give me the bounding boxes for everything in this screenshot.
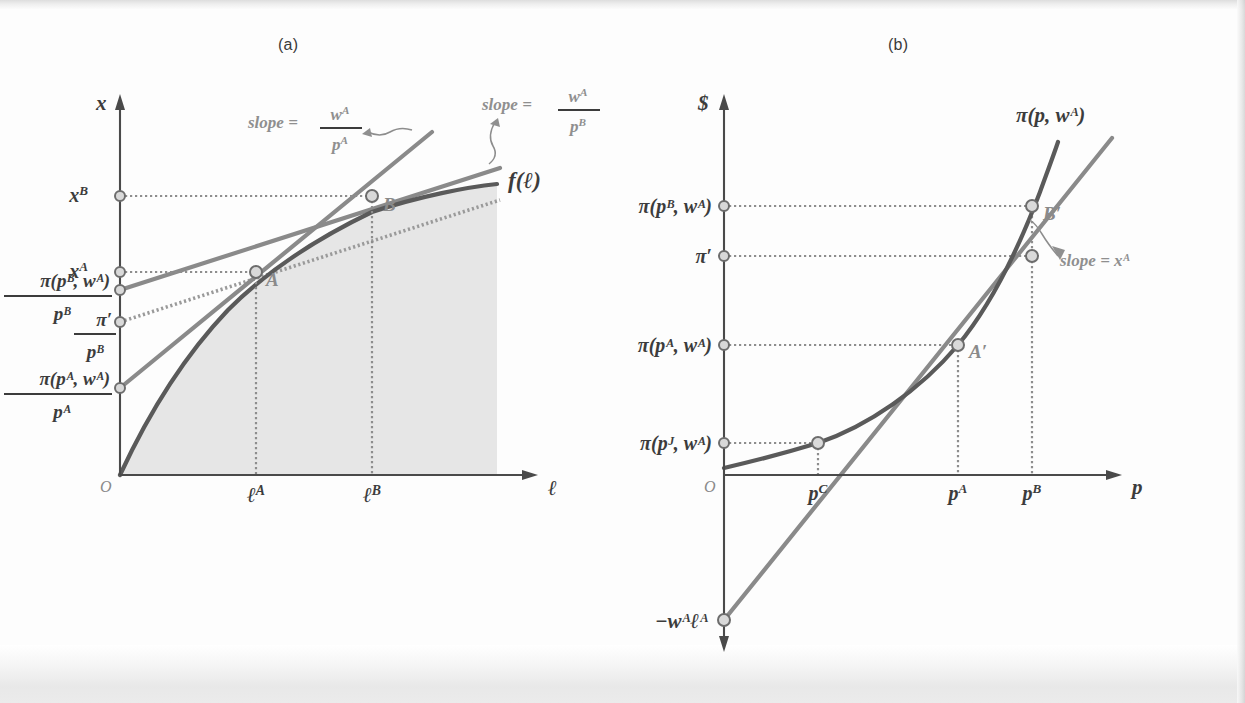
tick-point-piprime-pB <box>115 317 125 327</box>
point-intercept-marker <box>718 614 730 626</box>
y-tick-label-xB: xB <box>68 183 88 207</box>
point-Aprime-marker <box>952 339 964 351</box>
x-axis-arrow-a <box>522 470 538 480</box>
slope-a-denominator: pA <box>330 134 349 154</box>
tick-point-pi-pC <box>719 438 729 448</box>
y-tick-label-pi-pA: π(pᴬ, wᴬ) <box>638 334 712 357</box>
slope-a-numerator: wA <box>331 104 350 124</box>
slope-b-prefix: slope = <box>481 95 532 114</box>
frac-numerator-piB: π(pᴮ, wᴬ) <box>40 270 110 292</box>
slope-b-denominator: pB <box>568 116 587 136</box>
panel-a-caption: (a) <box>278 36 298 54</box>
tick-point-xB <box>115 191 125 201</box>
y-axis-arrow-b-up <box>719 94 729 110</box>
panel-a-chart: x ℓ O xB xA π(pᴮ, wᴬ) pᴮ π′ pᴮ π(pᴬ, <box>0 70 620 630</box>
frac-denominator-pB: pᴮ <box>52 303 72 324</box>
tick-point-pi-pB <box>719 201 729 211</box>
origin-label-a: O <box>100 478 112 495</box>
y-axis-arrow-a <box>115 94 125 110</box>
slope-b-numerator: wA <box>569 86 588 106</box>
y-axis-label-a: x <box>95 91 107 115</box>
origin-label-b: O <box>704 478 716 495</box>
panel-b-caption: (b) <box>888 36 908 54</box>
y-tick-label-pi-prime: π′ <box>695 245 712 267</box>
scan-artifact-top <box>0 0 1245 9</box>
point-B-label: B <box>382 194 396 215</box>
point-B-marker <box>366 190 378 202</box>
frac-denominator-pB2: pᴮ <box>85 341 105 362</box>
slope-annotation-xA: slope = xᴬ <box>1030 220 1131 270</box>
point-Bprime-label: B′ <box>1042 203 1061 224</box>
x-tick-label-lB: ℓB <box>363 483 381 508</box>
frac-denominator-pA: pᴬ <box>51 401 71 422</box>
tick-point-pi-pA <box>719 340 729 350</box>
point-Aprime-label: A′ <box>968 341 987 362</box>
intercept-label: −wᴬℓᴬ <box>655 609 708 633</box>
point-Bprime-marker <box>1026 200 1038 212</box>
slope-annotation-wA-pB: slope = wA pB <box>481 86 600 164</box>
tick-point-xA <box>115 267 125 277</box>
y-axis-label-b: $ <box>697 91 709 115</box>
y-tick-label-pi-pB: π(pᴮ, wᴬ) <box>639 195 712 218</box>
point-piprime-on-line-marker <box>1026 250 1038 262</box>
x-tick-label-pA: pA <box>947 481 968 506</box>
figure-root: (a) (b) x ℓ O x <box>0 0 1245 703</box>
x-axis-label-a: ℓ <box>548 476 557 500</box>
x-axis-arrow-b <box>1106 470 1122 480</box>
y-axis-arrow-b-down <box>719 636 729 652</box>
point-A-marker <box>250 266 262 278</box>
tick-point-piA-pA <box>115 383 125 393</box>
slope-annotation-wA-pA: slope = wA pA <box>247 104 412 154</box>
point-A-label: A <box>265 269 279 290</box>
y-tick-label-pi-pC: π(pᴶ, wᴬ) <box>640 432 712 455</box>
y-tick-label-piA-over-pA: π(pᴬ, wᴬ) pᴬ <box>4 368 112 422</box>
x-tick-label-pB: pB <box>1021 481 1042 506</box>
production-function-label: f(ℓ) <box>508 168 541 193</box>
tick-point-pi-prime <box>719 251 729 261</box>
frac-numerator-piA: π(pᴬ, wᴬ) <box>39 368 110 390</box>
profit-function-label: π(p, wᴬ) <box>1016 103 1085 127</box>
x-tick-label-lA: ℓA <box>247 483 265 508</box>
panel-b-chart: $ p O π(pᴮ, wᴬ) π′ π(pᴬ, wᴬ) π(pᴶ, wᴬ) p… <box>620 70 1240 660</box>
frac-numerator-piprime: π′ <box>96 309 112 330</box>
tick-point-piB-pB <box>115 285 125 295</box>
x-tick-label-pC: pC <box>807 481 828 506</box>
x-axis-label-b: p <box>1130 475 1143 499</box>
slope-xA-text: slope = xᴬ <box>1059 251 1131 270</box>
point-C-marker <box>812 437 824 449</box>
y-tick-label-piprime-over-pB: π′ pᴮ <box>74 309 116 362</box>
slope-a-prefix: slope = <box>247 113 298 132</box>
profit-function-curve <box>724 142 1058 468</box>
